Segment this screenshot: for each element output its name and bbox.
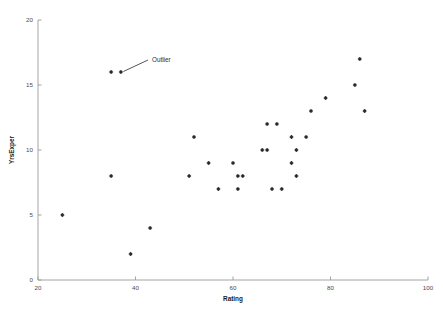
- data-point-tick-v: [237, 174, 238, 178]
- data-point: [275, 122, 279, 126]
- data-point: [236, 187, 240, 191]
- y-tick-label: 10: [26, 146, 33, 153]
- x-tick-label: 80: [327, 284, 334, 291]
- y-tick-label: 20: [26, 16, 33, 23]
- y-axis-title: YrsExper: [8, 135, 16, 164]
- data-point: [358, 57, 362, 61]
- data-point-tick-v: [262, 148, 263, 152]
- data-point-tick-v: [208, 161, 209, 165]
- y-tick-label: 0: [30, 276, 34, 283]
- data-point-tick-v: [296, 148, 297, 152]
- annotation-label-outlier: Outlier: [152, 56, 171, 63]
- data-point-tick-v: [189, 174, 190, 178]
- data-point-tick-v: [233, 161, 234, 165]
- data-point: [353, 83, 357, 87]
- data-point-tick-v: [111, 174, 112, 178]
- data-point: [270, 187, 274, 191]
- data-point: [290, 161, 294, 165]
- x-tick-label: 20: [35, 284, 42, 291]
- data-point-tick-v: [111, 70, 112, 74]
- x-tick-label: 60: [230, 284, 237, 291]
- data-point: [265, 148, 269, 152]
- data-point-tick-v: [272, 187, 273, 191]
- data-point-tick-v: [194, 135, 195, 139]
- data-point-tick-v: [281, 187, 282, 191]
- data-point: [109, 70, 113, 74]
- axes-group: [38, 20, 428, 280]
- x-tick-label: 100: [423, 284, 434, 291]
- data-point-tick-v: [354, 83, 355, 87]
- data-point-tick-v: [237, 187, 238, 191]
- data-points-group: [60, 57, 366, 256]
- data-point: [290, 135, 294, 139]
- data-point: [294, 174, 298, 178]
- data-point: [260, 148, 264, 152]
- data-point: [192, 135, 196, 139]
- data-point-tick-v: [62, 213, 63, 217]
- data-point-tick-v: [364, 109, 365, 113]
- annotations-group: Outlier: [123, 56, 170, 72]
- y-tick-label: 5: [30, 211, 34, 218]
- ticks-group: 2040608010005101520: [26, 16, 434, 291]
- data-point-tick-v: [291, 135, 292, 139]
- data-point-tick-v: [150, 226, 151, 230]
- data-point: [265, 122, 269, 126]
- data-point: [129, 252, 133, 256]
- plot-canvas: 2040608010005101520 Outlier RatingYrsExp…: [0, 0, 443, 312]
- data-point: [231, 161, 235, 165]
- data-point-tick-v: [267, 122, 268, 126]
- annotation-leader-line: [123, 60, 148, 72]
- data-point: [241, 174, 245, 178]
- x-axis-title: Rating: [223, 295, 243, 303]
- data-point-tick-v: [130, 252, 131, 256]
- data-point-tick-v: [359, 57, 360, 61]
- data-point: [119, 70, 123, 74]
- data-point-tick-v: [291, 161, 292, 165]
- data-point: [216, 187, 220, 191]
- data-point-tick-v: [120, 70, 121, 74]
- data-point-tick-v: [306, 135, 307, 139]
- axis-titles-group: RatingYrsExper: [8, 135, 243, 303]
- scatter-plot-figure: 2040608010005101520 Outlier RatingYrsExp…: [0, 0, 443, 312]
- data-point: [187, 174, 191, 178]
- data-point: [304, 135, 308, 139]
- data-point: [294, 148, 298, 152]
- data-point-tick-v: [267, 148, 268, 152]
- data-point-tick-v: [325, 96, 326, 100]
- data-point: [207, 161, 211, 165]
- data-point-tick-v: [311, 109, 312, 113]
- data-point: [363, 109, 367, 113]
- data-point: [236, 174, 240, 178]
- data-point: [324, 96, 328, 100]
- y-tick-label: 15: [26, 81, 33, 88]
- data-point: [309, 109, 313, 113]
- x-tick-label: 40: [132, 284, 139, 291]
- data-point-tick-v: [218, 187, 219, 191]
- data-point: [60, 213, 64, 217]
- data-point-tick-v: [276, 122, 277, 126]
- data-point-tick-v: [242, 174, 243, 178]
- data-point: [109, 174, 113, 178]
- data-point: [280, 187, 284, 191]
- data-point-tick-v: [296, 174, 297, 178]
- data-point: [148, 226, 152, 230]
